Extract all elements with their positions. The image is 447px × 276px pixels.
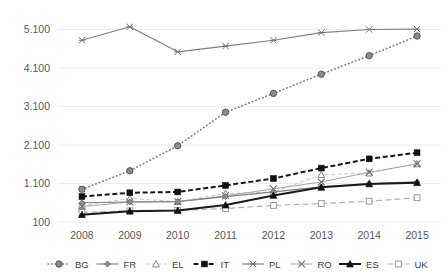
legend-label-RO: RO — [318, 259, 332, 270]
series-line-PL — [82, 27, 417, 52]
data-point-marker-circle — [79, 186, 85, 192]
data-point-marker-square-open — [396, 261, 402, 267]
data-point-marker-square — [202, 261, 208, 267]
legend-item-PL[interactable]: PL — [242, 259, 281, 270]
x-tick-label: 2010 — [166, 229, 190, 241]
data-point-marker-star-x — [174, 49, 180, 55]
data-point-marker-circle — [174, 143, 180, 149]
data-point-marker-star-x — [250, 261, 256, 267]
series-PL — [79, 24, 421, 55]
x-tick-label: 2009 — [118, 229, 142, 241]
data-point-marker-star-x — [414, 26, 420, 32]
legend-label-IT: IT — [221, 259, 230, 270]
data-point-marker-star-x — [318, 29, 324, 35]
legend-label-ES: ES — [366, 259, 379, 270]
x-tick-label: 2008 — [70, 229, 94, 241]
data-point-marker-star-x — [79, 37, 85, 43]
legend-label-FR: FR — [124, 259, 137, 270]
line-chart: 1001.1002.1003.1004.1005.100 20082009201… — [0, 0, 447, 276]
data-point-marker-circle — [414, 33, 420, 39]
y-tick-label: 4.100 — [24, 62, 50, 74]
series-line-BG — [82, 36, 417, 189]
data-point-marker-square-open — [366, 198, 372, 204]
legend-item-UK[interactable]: UK — [388, 259, 429, 270]
legend-item-BG[interactable]: BG — [48, 259, 89, 270]
x-tick-label: 2011 — [214, 229, 237, 241]
x-tick-label: 2012 — [262, 229, 286, 241]
legend-item-RO[interactable]: RO — [291, 259, 332, 270]
data-point-marker-square — [366, 156, 372, 162]
data-point-marker-circle — [127, 168, 133, 174]
chart-legend: BGFRELITPLROESUK — [48, 259, 428, 270]
y-tick-label: 1.100 — [24, 177, 50, 189]
y-tick-label: 3.100 — [24, 100, 50, 112]
legend-label-EL: EL — [172, 259, 184, 270]
legend-item-EL[interactable]: EL — [145, 259, 184, 270]
data-point-marker-square — [318, 165, 324, 171]
data-point-marker-square — [127, 190, 133, 196]
x-axis-tick-labels: 20082009201020112012201320142015 — [70, 229, 429, 241]
x-tick-label: 2015 — [405, 229, 429, 241]
data-point-marker-square — [175, 189, 181, 195]
data-point-marker-star-x — [127, 24, 133, 30]
legend-label-PL: PL — [269, 259, 281, 270]
y-axis-tick-labels: 1001.1002.1003.1004.1005.100 — [24, 23, 50, 228]
legend-item-ES[interactable]: ES — [339, 259, 379, 270]
legend-item-IT[interactable]: IT — [194, 259, 230, 270]
data-point-marker-diamond — [105, 261, 111, 267]
data-series-group — [79, 24, 421, 218]
data-point-marker-circle — [270, 90, 276, 96]
data-point-marker-square-open — [414, 195, 420, 201]
legend-item-FR[interactable]: FR — [97, 259, 137, 270]
series-BG — [79, 33, 421, 193]
x-tick-label: 2013 — [310, 229, 334, 241]
data-point-marker-square-open — [318, 201, 324, 207]
y-tick-label: 5.100 — [24, 23, 50, 35]
data-point-marker-circle — [222, 109, 228, 115]
chart-canvas: 1001.1002.1003.1004.1005.100 20082009201… — [0, 0, 447, 276]
x-tick-label: 2014 — [358, 229, 382, 241]
data-point-marker-circle — [56, 261, 62, 267]
data-point-marker-star-x — [270, 37, 276, 43]
y-tick-label: 100 — [32, 216, 50, 228]
y-tick-label: 2.100 — [24, 139, 50, 151]
legend-label-UK: UK — [415, 259, 429, 270]
data-point-marker-circle — [318, 71, 324, 77]
data-point-marker-square — [271, 176, 277, 182]
data-point-marker-square — [79, 194, 85, 200]
data-point-marker-square-open — [271, 203, 277, 209]
data-point-marker-circle — [366, 52, 372, 58]
legend-label-BG: BG — [75, 259, 89, 270]
data-point-marker-star-x — [366, 26, 372, 32]
data-point-marker-square — [414, 150, 420, 156]
data-point-marker-triangle-open — [318, 171, 325, 177]
data-point-marker-star-x — [222, 43, 228, 49]
data-point-marker-square — [223, 183, 229, 189]
